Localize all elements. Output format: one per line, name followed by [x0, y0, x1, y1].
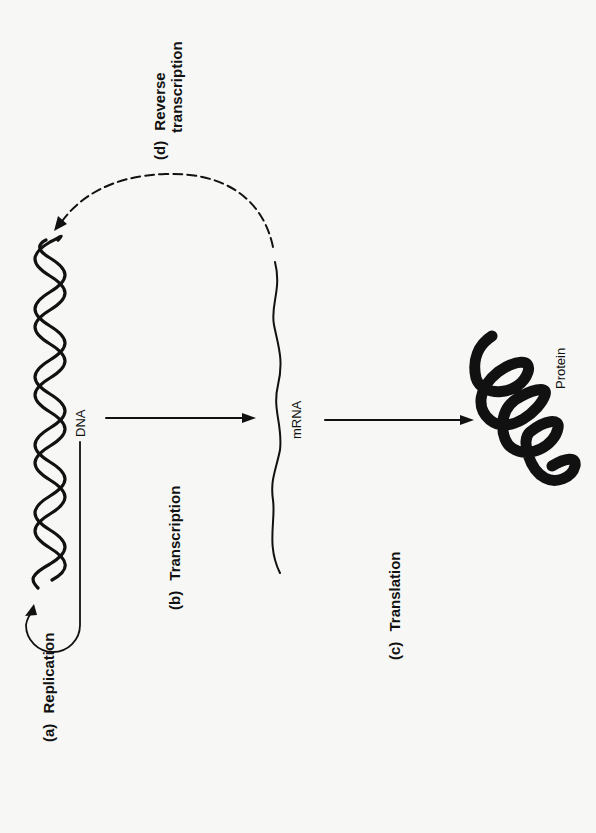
transcription-arrowhead-icon: [242, 413, 256, 423]
replication-name: Replication: [40, 633, 57, 714]
label-replication: (a) Replication: [40, 633, 57, 742]
svg-text:(a) Replication: (a) Replication: [40, 633, 57, 742]
translation-name: Translation: [386, 551, 403, 631]
label-reverse-transcription: (d) Reverse transcription: [151, 41, 185, 160]
reverse-transcription-name-line2: transcription: [168, 41, 185, 133]
transcription-letter: (b): [166, 591, 183, 610]
svg-text:(b) Transcription: (b) Transcription: [166, 486, 183, 610]
replication-letter: (a): [40, 724, 57, 742]
dna-label: DNA: [73, 409, 88, 437]
protein-label: Protein: [553, 348, 568, 389]
central-dogma-diagram: DNA mRNA Protein (a) Replication (b) Tra…: [0, 0, 596, 833]
reverse-transcription-arrow: [54, 174, 273, 247]
reverse-transcription-letter: (d): [151, 141, 168, 160]
translation-arrow: [325, 415, 474, 425]
transcription-name: Transcription: [166, 486, 183, 581]
replication-arrow: [25, 442, 80, 652]
transcription-arrow: [106, 413, 256, 423]
svg-text:(d) Reverse: (d) Reverse: [151, 72, 168, 160]
svg-text:(c) Translation: (c) Translation: [386, 551, 403, 660]
label-translation: (c) Translation: [386, 551, 403, 660]
replication-arrowhead-icon: [25, 604, 37, 616]
label-transcription: (b) Transcription: [166, 486, 183, 610]
translation-arrowhead-icon: [460, 415, 474, 425]
mrna-label: mRNA: [289, 400, 304, 439]
dna-double-helix: [33, 236, 65, 588]
mrna-strand: [272, 262, 280, 573]
translation-letter: (c): [386, 642, 403, 660]
reverse-transcription-name-line1: Reverse: [151, 72, 168, 130]
